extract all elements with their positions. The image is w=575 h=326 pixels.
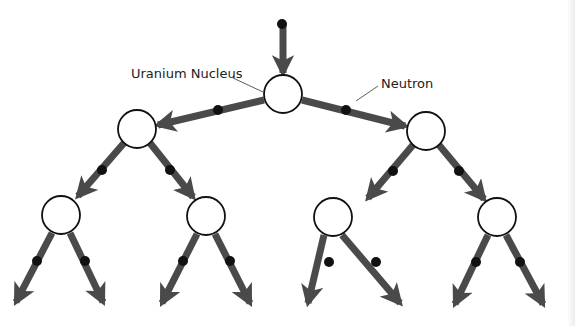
neutron-dot <box>80 256 90 266</box>
neutron-dot <box>515 257 525 267</box>
leader-line <box>356 86 378 101</box>
neutron-arrow <box>506 235 543 304</box>
page-edge-shadow <box>567 0 575 326</box>
neutron-arrow <box>70 233 103 302</box>
neutron-dot <box>324 257 334 267</box>
neutron-label: Neutron <box>381 76 433 91</box>
chain-reaction-diagram <box>0 0 575 326</box>
uranium-nucleus <box>187 197 225 235</box>
neutron-dot <box>97 165 107 175</box>
uranium-nucleus-label: Uranium Nucleus <box>131 66 242 81</box>
neutron-dot <box>213 105 223 115</box>
neutron-arrow <box>162 234 197 303</box>
neutron-arrow <box>302 100 405 126</box>
neutron-dot <box>225 256 235 266</box>
neutron-dot <box>277 19 287 29</box>
neutron-arrow <box>16 233 52 302</box>
neutron-arrow <box>455 235 488 304</box>
uranium-nucleus <box>42 196 80 234</box>
neutron-dot <box>388 166 398 176</box>
neutron-dots <box>32 19 525 267</box>
neutron-arrow <box>342 235 400 303</box>
neutron-arrow <box>308 235 324 303</box>
neutron-dot <box>32 256 42 266</box>
neutron-arrow <box>158 100 264 125</box>
neutron-dot <box>454 166 464 176</box>
uranium-nucleus <box>478 198 516 236</box>
neutron-arrows <box>16 24 543 304</box>
uranium-nucleus <box>118 110 156 148</box>
neutron-arrow <box>215 234 250 303</box>
neutron-dot <box>471 257 481 267</box>
neutron-dot <box>165 165 175 175</box>
neutron-dot <box>178 256 188 266</box>
uranium-nucleus <box>264 75 302 113</box>
uranium-nucleus <box>407 112 445 150</box>
neutron-dot <box>341 105 351 115</box>
neutron-dot <box>371 257 381 267</box>
uranium-nucleus <box>314 198 352 236</box>
